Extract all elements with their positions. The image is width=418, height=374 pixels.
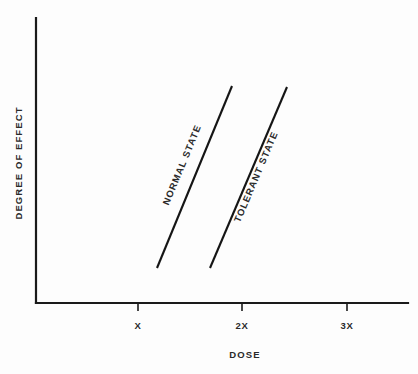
x-tick-label-3: 3X: [341, 320, 354, 331]
chart-canvas: X 2X 3X NORMAL STATE TOLERANT STATE DOSE…: [0, 0, 418, 374]
x-axis-title: DOSE: [229, 349, 260, 360]
dose-response-chart: X 2X 3X NORMAL STATE TOLERANT STATE DOSE…: [0, 0, 418, 374]
x-tick-label-1: X: [135, 320, 142, 331]
tolerant-state-label: TOLERANT STATE: [232, 129, 280, 223]
x-tick-label-2: 2X: [236, 320, 249, 331]
y-axis-title: DEGREE OF EFFECT: [13, 106, 24, 219]
normal-state-label: NORMAL STATE: [160, 123, 203, 207]
